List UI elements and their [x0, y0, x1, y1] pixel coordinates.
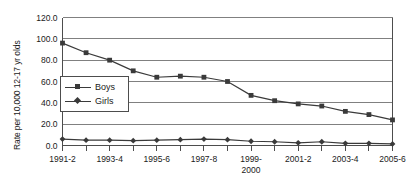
y-tick-label: 20.0	[41, 119, 58, 129]
x-tick-label: 2003-4	[332, 154, 359, 164]
data-point-boys	[390, 118, 395, 123]
data-point-girls	[130, 138, 136, 144]
data-point-boys	[154, 75, 159, 80]
line-chart: Rate per 10,000 12-17 yr olds 0.020.040.…	[0, 0, 416, 189]
data-point-boys	[296, 102, 301, 107]
x-tick-label: 1991-2	[49, 154, 76, 164]
data-point-boys	[84, 50, 89, 55]
data-point-boys	[343, 109, 348, 114]
data-point-boys	[225, 79, 230, 84]
data-point-girls	[295, 140, 301, 146]
data-point-girls	[248, 138, 254, 144]
y-tick-label: 120.0	[36, 13, 58, 23]
data-point-boys	[107, 58, 112, 63]
data-point-girls	[60, 136, 66, 142]
data-point-boys	[319, 104, 324, 109]
y-axis-title: Rate per 10,000 12-17 yr olds	[12, 40, 22, 150]
data-point-boys	[131, 68, 136, 73]
x-tick-label: 1999-	[240, 154, 262, 164]
data-point-boys	[178, 74, 183, 79]
x-tick-label: 1995-6	[144, 154, 171, 164]
y-tick-label: 60.0	[41, 77, 58, 87]
data-point-boys	[367, 112, 372, 117]
x-tick-label: 1993-4	[96, 154, 123, 164]
y-tick-label: 0.0	[46, 141, 58, 151]
data-point-girls	[107, 137, 113, 143]
legend-marker-square-icon	[65, 82, 91, 92]
x-tick-label: 1997-8	[191, 154, 218, 164]
data-point-girls	[319, 139, 325, 145]
legend-item-girls: Girls	[65, 94, 122, 108]
y-tick-label: 100.0	[36, 34, 58, 44]
data-point-girls	[83, 137, 89, 143]
data-point-girls	[272, 139, 278, 145]
data-point-girls	[201, 136, 207, 142]
x-tick-label: 2001-2	[285, 154, 312, 164]
legend-item-boys: Boys	[65, 80, 122, 94]
legend-marker-diamond-icon	[65, 96, 91, 106]
y-tick-label: 40.0	[41, 98, 58, 108]
y-tick-label: 80.0	[41, 55, 58, 65]
legend-label-girls: Girls	[95, 96, 114, 106]
legend-label-boys: Boys	[95, 82, 115, 92]
data-point-boys	[60, 41, 65, 46]
data-point-girls	[154, 137, 160, 143]
data-point-girls	[225, 137, 231, 143]
data-point-boys	[272, 98, 277, 103]
chart-legend: Boys Girls	[60, 76, 129, 112]
data-point-girls	[177, 137, 183, 143]
data-point-boys	[249, 93, 254, 98]
data-point-boys	[202, 75, 207, 80]
x-tick-label: 2005-6	[379, 154, 406, 164]
x-tick-label-line2: 2000	[242, 165, 261, 175]
